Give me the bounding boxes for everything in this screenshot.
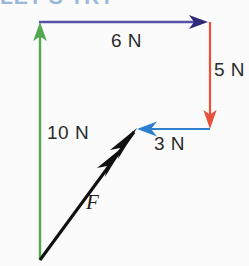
- label-3n: 3 N: [154, 134, 185, 153]
- label-10n: 10 N: [47, 123, 89, 142]
- vector-6n-purple: [39, 15, 208, 29]
- force-vector-diagram: LET'S TRY 6 N 5 N 10 N: [0, 0, 249, 266]
- label-force-f: F: [86, 192, 99, 213]
- label-6n: 6 N: [111, 31, 142, 50]
- label-5n: 5 N: [214, 60, 245, 79]
- vector-10n-green: [33, 22, 47, 260]
- vector-f-arrowhead-inner: [97, 146, 124, 177]
